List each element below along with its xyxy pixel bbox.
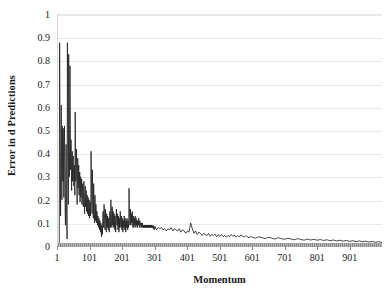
x-axis-tick-label: 101 <box>82 252 97 263</box>
x-axis-tick <box>57 246 58 250</box>
x-axis-tick <box>220 246 221 250</box>
chart-figure: Error in d Predictions 00.10.20.30.40.50… <box>0 0 388 302</box>
x-axis-tick-label: 301 <box>147 252 162 263</box>
y-axis-title-text: Error in d Predictions <box>7 74 18 175</box>
x-axis-tick-label: 801 <box>310 252 325 263</box>
y-axis-tick-label: 0.7 <box>38 78 51 89</box>
x-axis-tick-label: 601 <box>245 252 260 263</box>
x-axis-tick <box>90 246 91 250</box>
x-axis-tick-labels: 1101201301401501601701801901 <box>57 252 382 270</box>
x-axis-tick <box>187 246 188 250</box>
y-axis-tick-label: 0.6 <box>38 101 51 112</box>
x-axis-ticks <box>57 246 382 251</box>
x-axis-title: Momentum <box>57 274 382 285</box>
x-axis-tick-label: 501 <box>212 252 227 263</box>
x-axis-tick <box>350 246 351 250</box>
plot-area <box>57 14 382 246</box>
y-axis-tick-label: 0.4 <box>38 148 51 159</box>
x-axis-tick-label: 1 <box>55 252 60 263</box>
y-axis-tick-label: 1 <box>45 9 50 20</box>
y-axis-tick-label: 0.2 <box>38 194 51 205</box>
y-axis-tick-label: 0.3 <box>38 171 51 182</box>
x-axis-tick <box>285 246 286 250</box>
y-axis-tick-label: 0 <box>45 241 50 252</box>
y-axis-title: Error in d Predictions <box>0 0 24 250</box>
y-axis-tick-label: 0.8 <box>38 55 51 66</box>
x-axis-tick <box>122 246 123 250</box>
x-axis-tick <box>317 246 318 250</box>
x-axis-tick <box>155 246 156 250</box>
y-axis-tick-label: 0.1 <box>38 217 51 228</box>
data-series-line <box>58 15 382 246</box>
x-axis-tick-label: 701 <box>277 252 292 263</box>
y-axis-tick-label: 0.5 <box>38 125 51 136</box>
x-axis-tick-label: 201 <box>115 252 130 263</box>
x-axis-tick-label: 401 <box>180 252 195 263</box>
x-axis-tick-label: 901 <box>342 252 357 263</box>
x-axis-tick <box>252 246 253 250</box>
y-axis-tick-label: 0.9 <box>38 32 51 43</box>
y-axis-tick-labels: 00.10.20.30.40.50.60.70.80.91 <box>24 14 54 246</box>
